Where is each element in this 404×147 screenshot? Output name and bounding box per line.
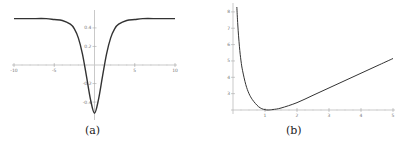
- x-tick-label: 3: [328, 113, 331, 118]
- y-tick-label: 6: [227, 42, 230, 47]
- chart-b-plot: 12345345678: [200, 0, 404, 147]
- chart-panel-a: -10-5510-0.4-0.20.20.4 (a): [0, 0, 200, 147]
- x-tick-label: 2: [296, 113, 299, 118]
- series-line: [237, 7, 393, 110]
- x-tick-label: 4: [360, 113, 363, 118]
- chart-b-caption: (b): [286, 124, 302, 137]
- x-tick-label: 5: [392, 113, 395, 118]
- x-tick-label: -5: [52, 68, 57, 73]
- y-tick-label: 3: [227, 91, 230, 96]
- chart-panel-b: 12345345678 (b): [200, 0, 404, 147]
- y-tick-label: 8: [227, 9, 230, 14]
- y-tick-label: 7: [227, 26, 230, 31]
- x-tick-label: 1: [264, 113, 267, 118]
- y-tick-label: 0.2: [84, 44, 91, 49]
- x-tick-label: 5: [133, 68, 136, 73]
- y-tick-label: 4: [227, 75, 230, 80]
- y-tick-label: 0.4: [84, 25, 91, 30]
- chart-a-caption: (a): [85, 124, 100, 137]
- y-tick-label: 5: [227, 58, 230, 63]
- x-tick-label: 10: [172, 68, 178, 73]
- x-tick-label: -10: [10, 68, 17, 73]
